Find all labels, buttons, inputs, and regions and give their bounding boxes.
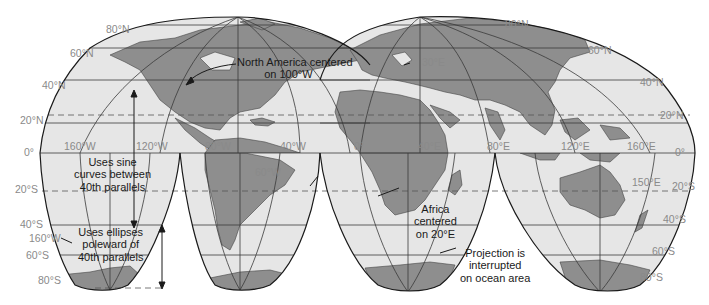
annotation-interrupted: Projection is interrupted on ocean area	[460, 247, 530, 284]
lat-label-0-left: 0°	[24, 147, 34, 158]
annotation-north-america: North America centered on 100°W	[237, 56, 353, 81]
lat-label-40n-right: 40°N	[640, 77, 663, 88]
lat-label-60n-left: 60°N	[70, 48, 93, 59]
lat-label-20n-left: 20°N	[20, 115, 43, 126]
lon-label-40w: 40°W	[280, 141, 306, 152]
lon-label-40e: 40°E	[418, 141, 441, 152]
lat-label-0-right: 0°	[675, 147, 685, 158]
lon-label-80e: 80°E	[487, 141, 510, 152]
lon-label-30e: 30°E	[422, 57, 445, 68]
lon-label-120w: 120°W	[136, 141, 168, 152]
annotation-line: North America centered	[237, 56, 353, 68]
lon-label-160w-south: 160°W	[29, 233, 61, 244]
land-antarctica	[60, 260, 650, 292]
lat-label-40s-left: 40°S	[20, 219, 43, 230]
annotation-line: curves between	[74, 168, 151, 180]
lat-label-20n-right: 20°N	[660, 110, 683, 121]
lon-label-150e: 150°E	[632, 177, 661, 188]
lon-label-120e: 120°E	[561, 141, 590, 152]
annotation-line: interrupted	[460, 259, 530, 271]
lat-label-60s-left: 60°S	[26, 250, 49, 261]
annotation-sine-curves: Uses sine curves between 40th parallels	[74, 156, 151, 193]
annotation-line: Uses sine	[74, 156, 151, 168]
annotation-line: Projection is	[460, 247, 530, 259]
lat-label-20s-left: 20°S	[15, 184, 38, 195]
annotation-africa: Africa centered on 20°E	[414, 203, 457, 240]
lat-label-40s-right: 40°S	[663, 214, 686, 225]
annotation-line: on ocean area	[460, 272, 530, 284]
annotation-line: Uses ellipses	[78, 226, 143, 238]
lon-label-160e: 160°E	[627, 141, 656, 152]
lon-label-60w: 60°W	[255, 167, 281, 178]
annotation-line: 40th parallels	[74, 181, 151, 193]
lon-label-80w: 80°W	[205, 141, 231, 152]
lat-label-80n-right: 80°N	[505, 19, 528, 30]
lon-label-0: 0°	[354, 141, 364, 152]
annotation-line: on 20°E	[414, 228, 457, 240]
annotation-line: 40th parallels	[78, 251, 143, 263]
lat-label-20s-right: 20°S	[672, 181, 695, 192]
lat-label-80s-right: 80°S	[640, 272, 663, 283]
lat-label-80n-left: 80°N	[106, 24, 129, 35]
annotation-line: Africa	[414, 203, 457, 215]
lat-label-40n-left: 40°N	[42, 80, 65, 91]
annotation-line: on 100°W	[237, 68, 353, 80]
lat-label-60n-right: 60°N	[588, 45, 611, 56]
lat-label-60s-right: 60°S	[652, 246, 675, 257]
lon-label-160w: 160°W	[64, 141, 96, 152]
annotation-line: centered	[414, 215, 457, 227]
lat-label-80s-left: 80°S	[38, 275, 61, 286]
annotation-ellipses: Uses ellipses poleward of 40th parallels	[78, 226, 143, 263]
annotation-line: poleward of	[78, 238, 143, 250]
